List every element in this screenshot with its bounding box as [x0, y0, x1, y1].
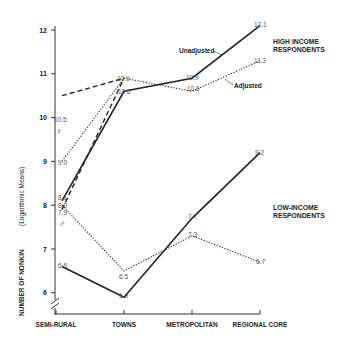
data-value-label: 12.1 [254, 21, 267, 28]
series-line-2 [62, 153, 260, 298]
y-axis-title: NUMBER OF NONKIN [18, 249, 25, 316]
group-label-high-income: RESPONDENTS [273, 46, 325, 53]
data-value-label: 8.0 [58, 202, 67, 209]
y-axis-subtitle: (Logarithmic Means) [18, 167, 26, 226]
x-category-label: TOWNS [112, 321, 137, 328]
annotation-adjusted: Adjusted [234, 82, 262, 90]
y-tick-label: 7 [43, 246, 47, 253]
x-category-label: METROPOLITAN [166, 321, 218, 328]
data-value-label: 7.9 [58, 209, 67, 216]
y-tick-label: 6 [43, 289, 47, 296]
series-line-5 [62, 78, 124, 209]
data-value-label: 6.6 [58, 262, 67, 269]
line-chart: 6789101112SEMI-RURALTOWNSMETROPOLITANREG… [0, 0, 342, 346]
y-tick-label: 8 [43, 202, 47, 209]
data-value-label: 10.9 [117, 75, 130, 82]
annotation-leader [225, 79, 233, 85]
data-value-label: 7.3 [188, 231, 197, 238]
data-value-label: 6.7 [256, 258, 265, 265]
data-value-label: 9.0 [58, 159, 67, 166]
data-value-label: 7.7 [188, 213, 197, 220]
y-tick-label: 12 [39, 27, 47, 34]
data-value-label: 10.6 [187, 85, 200, 92]
x-category-label: REGIONAL CORE [233, 321, 288, 328]
annotation-unadjusted: Unadjusted [179, 47, 214, 55]
group-label-high-income: HIGH INCOME [273, 38, 320, 45]
data-value-label: 6.5 [119, 273, 128, 280]
y-tick-label: 10 [39, 114, 47, 121]
data-value-label: 10.5 [54, 116, 67, 123]
y-tick-label: 9 [43, 158, 47, 165]
female-symbol-icon: ♀ [56, 126, 63, 136]
data-value-label: 11.3 [254, 57, 267, 64]
series-line-0 [62, 26, 260, 201]
y-tick-label: 11 [40, 70, 48, 77]
male-symbol-icon: ♂ [59, 219, 66, 229]
data-value-label: 10.9 [186, 74, 199, 81]
series-line-4 [62, 78, 124, 96]
data-value-label: 5.9 [119, 292, 128, 299]
series-line-1 [62, 61, 260, 162]
series-line-3 [62, 205, 260, 271]
data-value-label: 9.2 [255, 149, 264, 156]
group-label-low-income: RESPONDENTS [273, 212, 325, 219]
data-value-label: 8.1 [58, 194, 67, 201]
group-label-low-income: LOW-INCOME [273, 204, 319, 211]
x-category-label: SEMI-RURAL [36, 321, 77, 328]
data-value-label: 10.6 [118, 88, 131, 95]
